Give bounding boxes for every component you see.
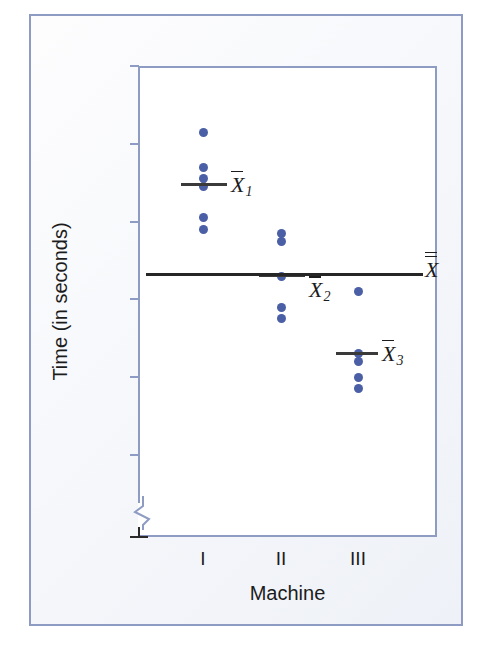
grand-mean-label: X bbox=[425, 257, 438, 283]
y-tick-18 bbox=[130, 454, 139, 456]
data-point bbox=[354, 357, 363, 366]
axis-break-icon bbox=[131, 496, 153, 530]
grand-mean-line bbox=[146, 273, 423, 276]
data-point bbox=[199, 128, 208, 137]
data-point bbox=[277, 314, 286, 323]
x-tick-label-iii: III bbox=[328, 548, 388, 570]
group-1-mean-label: X1 bbox=[231, 172, 252, 200]
y-tick-20 bbox=[130, 376, 139, 378]
x-tick-label-i: I bbox=[173, 548, 233, 570]
mean-subscript: 3 bbox=[396, 353, 403, 368]
y-tick-22 bbox=[130, 298, 139, 300]
data-point bbox=[277, 237, 286, 246]
data-point bbox=[199, 163, 208, 172]
data-point bbox=[354, 384, 363, 393]
mean-symbol: X bbox=[231, 172, 244, 198]
mean-symbol: X bbox=[309, 277, 322, 303]
chart-page: Time (in seconds) 2826242220180 IIIIII M… bbox=[0, 0, 492, 654]
y-axis-spine bbox=[138, 66, 140, 503]
plot-frame bbox=[138, 66, 437, 537]
mean-symbol: X bbox=[382, 341, 395, 367]
data-point bbox=[199, 213, 208, 222]
data-point bbox=[277, 303, 286, 312]
data-point bbox=[199, 225, 208, 234]
group-3-mean-label: X3 bbox=[382, 341, 403, 369]
data-point bbox=[354, 287, 363, 296]
grand-mean-symbol: X bbox=[425, 257, 438, 283]
mean-subscript: 1 bbox=[245, 184, 252, 199]
group-3-mean-line bbox=[336, 352, 378, 355]
y-axis-title: Time (in seconds) bbox=[49, 172, 72, 432]
group-1-mean-line bbox=[181, 183, 227, 186]
y-tick-24 bbox=[130, 221, 139, 223]
data-point bbox=[354, 373, 363, 382]
y-tick-28 bbox=[130, 65, 139, 67]
mean-subscript: 2 bbox=[323, 289, 330, 304]
y-axis-origin-tick bbox=[130, 536, 148, 538]
x-tick-label-ii: II bbox=[251, 548, 311, 570]
group-2-mean-label: X2 bbox=[309, 277, 330, 305]
y-tick-26 bbox=[130, 143, 139, 145]
x-axis-title: Machine bbox=[138, 582, 437, 605]
